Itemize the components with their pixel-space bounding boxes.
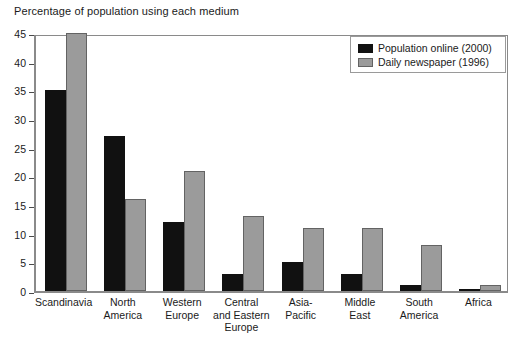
bar [184,171,205,291]
bar [222,274,243,291]
y-axis-tick-mark [29,293,34,294]
x-axis-category-label-line: North [93,296,153,309]
x-axis-category-label-line: Europe [211,321,271,334]
plot-area [34,35,508,293]
legend-item-population-online: Population online (2000) [358,41,492,55]
x-axis-category-label-line: Middle [330,296,390,309]
bar [362,228,383,291]
bar-group [341,36,383,291]
x-axis-category-label-line: South [389,296,449,309]
bar [66,33,87,291]
legend-swatch-icon [358,58,373,67]
chart-title: Percentage of population using each medi… [14,5,239,18]
chart-legend: Population online (2000) Daily newspaper… [350,36,506,73]
bar-group [104,36,146,291]
bar [104,136,125,291]
legend-item-label: Population online (2000) [378,42,492,54]
y-axis-tick-label: 15 [14,200,26,213]
y-axis-tick-label: 25 [14,143,26,156]
legend-swatch-icon [358,44,373,53]
x-axis-category-label: MiddleEast [330,296,390,321]
bar-group [282,36,324,291]
bar-group [163,36,205,291]
y-axis-tick-label: 35 [14,85,26,98]
bar [303,228,324,291]
y-axis: 051015202530354045 [0,0,34,348]
x-axis-category-label-line: America [93,309,153,322]
y-axis-tick-label: 20 [14,171,26,184]
x-axis-category-label: Centraland EasternEurope [211,296,271,334]
x-axis-category-label: Africa [448,296,508,309]
x-axis-category-label-line: Scandinavia [34,296,94,309]
x-axis-category-label-line: and Eastern [211,309,271,322]
x-axis-category-label: WesternEurope [152,296,212,321]
bar [459,289,480,291]
legend-item-daily-newspaper: Daily newspaper (1996) [358,55,489,69]
x-axis-category-label-line: Central [211,296,271,309]
y-axis-tick-label: 40 [14,57,26,70]
bar-group [400,36,442,291]
bar [163,222,184,291]
x-axis-category-label: SouthAmerica [389,296,449,321]
bar [45,90,66,291]
bar-group [222,36,264,291]
bar [341,274,362,291]
x-axis-category-label-line: Europe [152,309,212,322]
bar [243,216,264,291]
x-axis-category-label-line: Western [152,296,212,309]
x-axis: ScandinaviaNorthAmericaWesternEuropeCent… [34,296,508,348]
bar [282,262,303,291]
x-axis-category-label-line: Africa [448,296,508,309]
x-axis-category-label-line: America [389,309,449,322]
x-axis-category-label: Asia-Pacific [271,296,331,321]
y-axis-tick-label: 10 [14,229,26,242]
x-axis-category-label-line: Asia- [271,296,331,309]
bars-layer [36,36,507,291]
bar [480,285,501,291]
x-axis-category-label-line: East [330,309,390,322]
y-axis-tick-label: 30 [14,114,26,127]
y-axis-tick-label: 0 [20,286,26,299]
bar-chart: Percentage of population using each medi… [0,0,521,348]
bar [400,285,421,291]
x-axis-category-label: Scandinavia [34,296,94,309]
y-axis-tick-label: 5 [20,257,26,270]
bar [421,245,442,291]
bar-group [45,36,87,291]
y-axis-tick-label: 45 [14,28,26,41]
x-axis-category-label-line: Pacific [271,309,331,322]
legend-item-label: Daily newspaper (1996) [378,56,489,68]
x-axis-category-label: NorthAmerica [93,296,153,321]
bar [125,199,146,291]
bar-group [459,36,501,291]
